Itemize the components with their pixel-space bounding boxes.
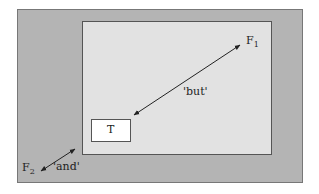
f1-label: F1 <box>246 34 259 49</box>
diagram-canvas <box>0 0 319 194</box>
f2-label: F2 <box>22 161 35 176</box>
f2-main: F <box>22 161 30 174</box>
f1-subscript: 1 <box>254 40 259 49</box>
f2-subscript: 2 <box>30 167 35 176</box>
f1-main: F <box>246 34 254 47</box>
t-label: T <box>107 123 114 136</box>
and-label: 'and' <box>53 160 80 173</box>
but-label: 'but' <box>183 85 208 98</box>
